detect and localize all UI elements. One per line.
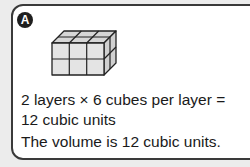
volume-statement: The volume is 12 cubic units. xyxy=(21,133,221,151)
calculation-result: 12 cubic units xyxy=(21,111,116,129)
calculation-line: 2 layers × 6 cubes per layer = xyxy=(21,91,225,109)
badge-letter: A xyxy=(21,14,30,26)
example-label-badge: A xyxy=(17,12,33,28)
cube-prism-icon xyxy=(50,28,120,80)
